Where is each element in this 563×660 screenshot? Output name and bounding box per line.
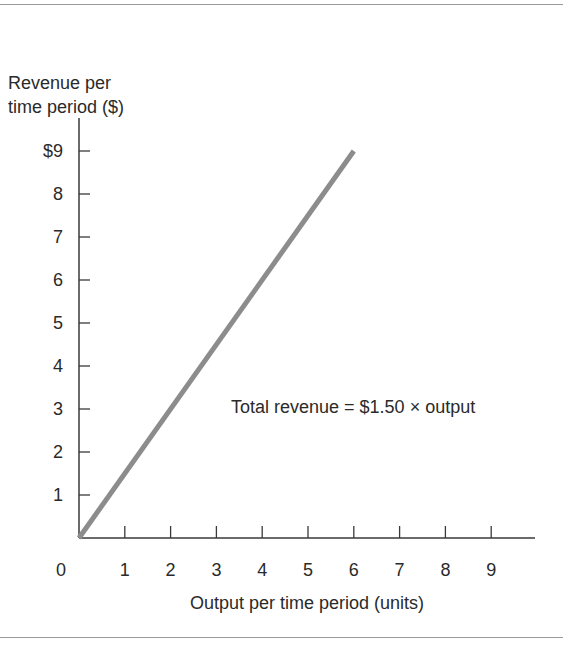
x-tick-label: 7 bbox=[395, 560, 405, 580]
y-tick-label: 2 bbox=[53, 442, 63, 462]
x-tick-label: 1 bbox=[120, 560, 130, 580]
total-revenue-line bbox=[79, 151, 354, 538]
series-line bbox=[79, 151, 354, 538]
y-axis-ticks: 12345678$9 bbox=[43, 141, 90, 505]
x-tick-label: 2 bbox=[166, 560, 176, 580]
total-revenue-annotation: Total revenue = $1.50 × output bbox=[231, 397, 475, 417]
x-tick-label: 5 bbox=[303, 560, 313, 580]
x-tick-label: 9 bbox=[486, 560, 496, 580]
chart-plot: 12345678$9 123456789 0 Output per time p… bbox=[0, 0, 563, 660]
y-tick-label: 5 bbox=[53, 313, 63, 333]
x-tick-label: 8 bbox=[440, 560, 450, 580]
y-tick-label: 7 bbox=[53, 227, 63, 247]
x-axis-label: Output per time period (units) bbox=[190, 593, 424, 613]
y-tick-label: $9 bbox=[43, 141, 63, 161]
x-tick-label: 4 bbox=[257, 560, 267, 580]
axes bbox=[79, 118, 535, 538]
y-tick-label: 4 bbox=[53, 356, 63, 376]
x-axis-ticks: 123456789 bbox=[120, 526, 496, 580]
y-tick-label: 3 bbox=[53, 399, 63, 419]
y-tick-label: 8 bbox=[53, 184, 63, 204]
y-tick-label: 6 bbox=[53, 270, 63, 290]
x-tick-label: 6 bbox=[349, 560, 359, 580]
x-tick-label: 3 bbox=[211, 560, 221, 580]
y-tick-label: 1 bbox=[53, 485, 63, 505]
origin-label: 0 bbox=[56, 560, 66, 580]
